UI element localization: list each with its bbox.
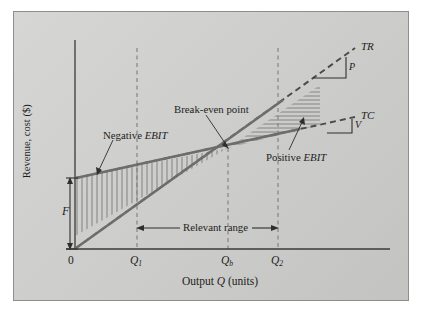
plot-canvas [0, 0, 421, 312]
tick-label-q1-sub: 1 [138, 259, 142, 268]
y-axis-label: Revenue, cost ($) [22, 71, 33, 211]
positive-ebit-hatching [220, 88, 330, 148]
negative-ebit-label: Negative EBIT [103, 130, 167, 141]
positive-ebit-prefix: Positive [266, 151, 304, 163]
tick-label-q1: Q1 [130, 255, 142, 268]
tick-label-q2: Q2 [271, 255, 283, 268]
x-axis-label: Output Q (units) [120, 276, 320, 288]
fixed-cost-label: F [62, 205, 69, 217]
positive-ebit-label: Positive EBIT [266, 152, 326, 163]
variable-cost-slope-triangle [327, 119, 352, 133]
positive-ebit-leader [289, 120, 303, 150]
price-slope-label: P [349, 62, 355, 72]
tick-label-origin: 0 [68, 255, 74, 267]
x-axis-label-suffix: (units) [225, 275, 258, 287]
variable-cost-slope-label: V [355, 120, 361, 130]
negative-ebit-leader [98, 140, 113, 172]
price-slope-triangle [313, 57, 346, 78]
relevant-range-label: Relevant range [183, 222, 248, 233]
x-axis-label-variable: Q [217, 275, 225, 287]
tick-label-qb: Qb [221, 255, 233, 268]
series-label-tc: TC [361, 110, 374, 121]
break-even-point-label: Break-even point [174, 104, 249, 115]
break-even-figure: Revenue, cost ($) Output Q (units) 0 Q1 … [0, 0, 421, 312]
series-label-tr: TR [361, 41, 374, 52]
break-even-leader [206, 115, 227, 146]
tick-label-q2-sub: 2 [279, 259, 283, 268]
positive-ebit-term: EBIT [304, 151, 327, 163]
negative-ebit-term: EBIT [145, 129, 168, 141]
tick-label-qb-sub: b [229, 259, 233, 268]
negative-ebit-prefix: Negative [103, 129, 145, 141]
x-axis-label-prefix: Output [182, 275, 217, 287]
